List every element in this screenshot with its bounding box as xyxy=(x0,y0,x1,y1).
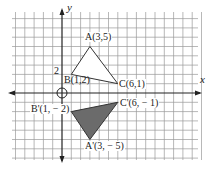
vertex-label-a-prime: A'(3, − 5) xyxy=(84,141,125,151)
x-axis-label: x xyxy=(200,74,205,85)
vertex-label-b: B(1,2) xyxy=(63,75,91,85)
y-axis-arrow-up xyxy=(60,8,65,15)
x-axis-arrow-right xyxy=(195,91,202,96)
vertex-label-c: C(6,1) xyxy=(118,79,146,89)
vertex-label-a: A(3,5) xyxy=(84,32,112,42)
x-axis-arrow-left xyxy=(8,91,15,96)
tick-label-2: 2 xyxy=(53,66,60,76)
coordinate-plane: x y 2 A(3,5) B(1,2) C(6,1) B'(1, − 2) C'… xyxy=(0,0,210,171)
y-axis-arrow-down xyxy=(60,156,65,163)
vertex-label-b-prime: B'(1, − 2) xyxy=(30,104,70,114)
y-axis-label: y xyxy=(67,2,72,13)
vertex-label-c-prime: C'(6, − 1) xyxy=(119,98,159,108)
